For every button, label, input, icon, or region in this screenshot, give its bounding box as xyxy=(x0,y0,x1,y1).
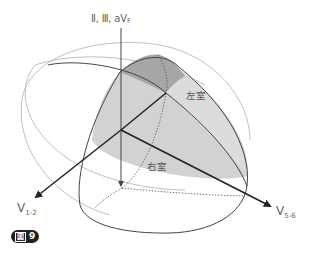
axis-label-main: V xyxy=(17,201,25,215)
axis-label-sub: F xyxy=(127,17,131,25)
axis-label-sub: 5-6 xyxy=(284,212,295,220)
axis-label-v1-2: V1-2 xyxy=(17,201,37,215)
ventricle-shading xyxy=(92,55,248,179)
axis-label-main: V xyxy=(276,204,284,218)
axis-label-main: Ⅱ, Ⅲ, aV xyxy=(91,13,127,24)
figure-number: 9 xyxy=(29,230,35,243)
left-ventricle-label: 左室 xyxy=(186,88,206,102)
figure-kanji: 図 xyxy=(15,232,26,242)
axis-label-v5-6: V5-6 xyxy=(276,204,296,218)
diagram-graphic xyxy=(0,0,311,263)
v12-axis xyxy=(36,130,121,197)
axis-label-sub: 1-2 xyxy=(25,209,36,217)
heart-axis-diagram: Ⅱ, Ⅲ, aVF V1-2 V5-6 左室 右室 図 9 xyxy=(0,0,311,263)
axis-label-inferior-leads: Ⅱ, Ⅲ, aVF xyxy=(91,13,131,24)
figure-number-badge: 図 9 xyxy=(11,230,39,243)
right-ventricle-label: 右室 xyxy=(147,159,167,173)
